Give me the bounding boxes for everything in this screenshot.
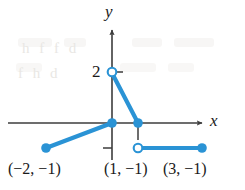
point-label-1-neg1: (1, −1) (104, 161, 148, 177)
y-axis-label: y (105, 3, 113, 20)
point-label-neg2-neg1: (−2, −1) (8, 161, 61, 177)
y-tick-label-2: 2 (92, 63, 101, 80)
axes-group (8, 30, 202, 160)
graph-figure: h f f d f h d y x 2 (−2, −1) (1, −1) (3,… (0, 0, 245, 190)
closed-point-3-neg1 (197, 143, 207, 153)
scan-artifacts (16, 38, 214, 72)
segment-left (46, 123, 112, 148)
segment-middle (112, 73, 138, 123)
x-axis-label: x (210, 112, 218, 129)
closed-point-0-0 (107, 118, 117, 128)
open-point-0-2 (108, 68, 117, 77)
closed-point-neg2-neg1 (41, 143, 51, 153)
function-curve-group (46, 73, 202, 148)
open-endpoints-group (108, 68, 143, 153)
point-label-3-neg1: (3, −1) (163, 161, 207, 177)
closed-point-1-0 (133, 118, 143, 128)
open-point-1-neg1 (134, 144, 143, 153)
